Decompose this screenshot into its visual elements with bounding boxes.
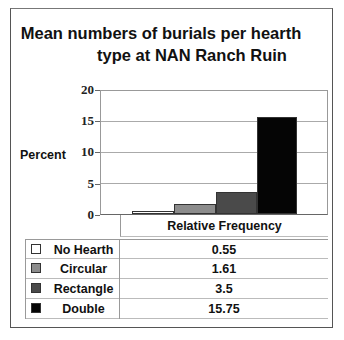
- legend-entry: Double: [25, 299, 120, 319]
- chart-title-line-1: Mean numbers of burials per hearth: [0, 22, 344, 44]
- legend-label: Double: [46, 299, 121, 319]
- bar-rectangle: [216, 192, 257, 214]
- legend-swatch-icon: [31, 263, 41, 273]
- legend-entry: Circular: [25, 259, 120, 279]
- legend-label: No Hearth: [46, 240, 121, 260]
- table-value: 1.61: [120, 259, 328, 279]
- bar-circular: [174, 204, 216, 214]
- table-value: 0.55: [120, 240, 328, 260]
- y-tick-20: 20: [70, 83, 94, 97]
- bar-no-hearth: [132, 211, 174, 214]
- y-axis-label: Percent: [20, 148, 66, 162]
- y-tick-5: 5: [70, 177, 94, 191]
- table-row: Double 15.75: [25, 299, 328, 319]
- legend-swatch-icon: [31, 244, 41, 254]
- chart-title-line-2: type at NAN Ranch Ruin: [0, 44, 344, 66]
- chart-title: Mean numbers of burials per hearth type …: [0, 22, 344, 66]
- table-row: Circular 1.61: [25, 259, 328, 279]
- y-tick-0: 0: [70, 208, 94, 222]
- table-value: 15.75: [120, 299, 328, 319]
- legend-label: Circular: [46, 259, 121, 279]
- legend-entry: Rectangle: [25, 279, 120, 299]
- legend-swatch-icon: [31, 283, 41, 293]
- legend-label: Rectangle: [46, 279, 121, 299]
- legend-entry: No Hearth: [25, 240, 120, 260]
- table-row: Rectangle 3.5: [25, 279, 328, 299]
- y-tickmark: [95, 215, 100, 216]
- table-value: 3.5: [120, 279, 328, 299]
- y-tick-10: 10: [70, 145, 94, 159]
- table-header-category: Relative Frequency: [120, 215, 328, 237]
- table-row: No Hearth 0.55: [25, 239, 328, 259]
- y-tick-15: 15: [70, 114, 94, 128]
- legend-swatch-icon: [31, 303, 41, 313]
- bar-double: [257, 117, 297, 214]
- plot-area: [100, 90, 328, 215]
